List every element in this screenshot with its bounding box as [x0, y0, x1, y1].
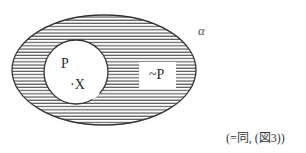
set-p-label: P: [61, 57, 69, 71]
complement-label: ~P: [149, 68, 164, 82]
figure-caption: (=同, (図3)): [226, 132, 285, 144]
universe-alpha-label: α: [198, 24, 205, 37]
element-x-label: ·X: [70, 78, 85, 92]
